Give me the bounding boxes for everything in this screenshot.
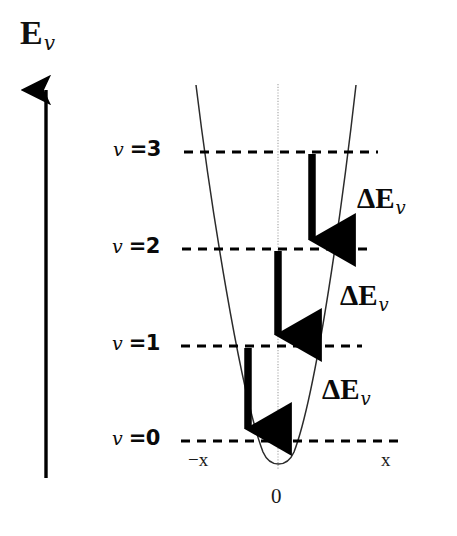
transition-label-3-to-2: ΔEv (357, 184, 406, 217)
transition-label-main: ΔE (322, 373, 360, 405)
transition-label-main: ΔE (357, 182, 395, 214)
transition-label-main: ΔE (340, 279, 378, 311)
level-v-symbol: v (112, 427, 123, 449)
vibrational-energy-level-diagram: Ev v=3 v=2 v=1 v=0 ΔEv ΔEv ΔEv −x 0 x (0, 0, 457, 536)
level-equals-value: =3 (130, 137, 161, 161)
level-v-symbol: v (113, 138, 124, 160)
x-axis-origin-label: 0 (271, 486, 282, 507)
energy-level-label-v2: v=2 (112, 236, 160, 257)
energy-axis-title-subscript: v (44, 31, 55, 55)
energy-level-label-v0: v=0 (112, 428, 160, 449)
energy-level-label-v1: v=1 (112, 333, 160, 354)
transition-label-subscript: v (361, 388, 371, 409)
transition-label-subscript: v (379, 294, 389, 315)
level-equals-value: =0 (129, 426, 160, 450)
energy-axis-title-main: E (20, 14, 43, 51)
transition-arrows (248, 154, 312, 429)
energy-axis-title: Ev (20, 16, 55, 53)
transition-label-2-to-1: ΔEv (340, 281, 389, 314)
energy-level-label-v3: v=3 (113, 139, 161, 160)
x-axis-right-label: x (381, 450, 391, 469)
x-axis-left-label: −x (188, 450, 208, 469)
level-equals-value: =1 (129, 331, 160, 355)
level-v-symbol: v (112, 235, 123, 257)
level-v-symbol: v (112, 332, 123, 354)
transition-label-1-to-0: ΔEv (322, 375, 371, 408)
level-equals-value: =2 (129, 234, 160, 258)
transition-label-subscript: v (396, 197, 406, 218)
